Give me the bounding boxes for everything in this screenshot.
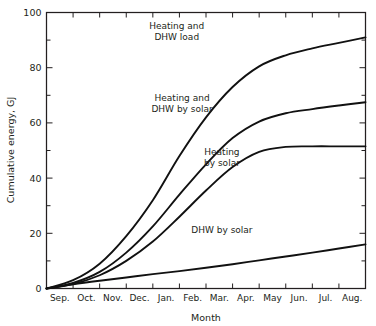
series-label: DHW load — [154, 32, 199, 42]
x-tick-label: Jan. — [157, 293, 175, 303]
y-tick-label: 20 — [29, 228, 41, 239]
x-tick-label: Mar. — [210, 293, 229, 303]
y-tick-label: 80 — [29, 62, 41, 73]
series-label: DHW by solar — [151, 104, 213, 114]
y-tick-label: 100 — [23, 7, 41, 18]
x-axis-title: Month — [191, 312, 221, 323]
x-tick-label: May — [263, 293, 282, 303]
cumulative-energy-line-chart: 020406080100 Sep.Oct.Nov.Dec.Jan.Feb.Mar… — [0, 0, 376, 326]
chart-background — [0, 0, 376, 326]
x-tick-label: Nov. — [103, 293, 123, 303]
x-tick-label: Dec. — [129, 293, 149, 303]
y-axis-title: Cumulative energy, GJ — [5, 97, 16, 204]
series-label: Heating and — [149, 21, 204, 31]
x-tick-label: Jun. — [290, 293, 308, 303]
y-tick-label: 40 — [29, 173, 41, 184]
y-tick-label: 60 — [29, 117, 41, 128]
x-tick-label: Aug. — [342, 293, 362, 303]
series-label: by solar — [204, 158, 240, 168]
x-tick-label: Oct. — [77, 293, 95, 303]
series-label: Heating — [204, 147, 239, 157]
y-tick-label: 0 — [35, 283, 41, 294]
series-label: DHW by solar — [191, 225, 253, 235]
series-label: Heating and — [155, 93, 210, 103]
x-tick-label: Apr. — [237, 293, 255, 303]
x-tick-label: Feb. — [183, 293, 202, 303]
chart-container: 020406080100 Sep.Oct.Nov.Dec.Jan.Feb.Mar… — [0, 0, 376, 326]
x-tick-label: Jul. — [318, 293, 333, 303]
x-tick-label: Sep. — [50, 293, 70, 303]
